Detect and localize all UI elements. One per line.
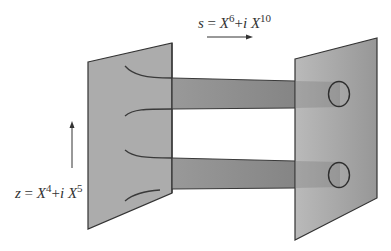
upper-tube [172,78,295,109]
z-direction-arrow [70,121,75,168]
diagram-canvas: s = X6+i X10 z = X4+i X5 [0,0,391,251]
s-direction-arrow [207,35,253,40]
arrowhead-right-icon [246,35,253,40]
lower-tube [172,158,295,189]
z-label: z = X4+i X5 [14,182,83,201]
s-label: s = X6+i X10 [198,12,272,31]
right-plane [295,38,377,240]
arrowhead-up-icon [70,121,75,128]
